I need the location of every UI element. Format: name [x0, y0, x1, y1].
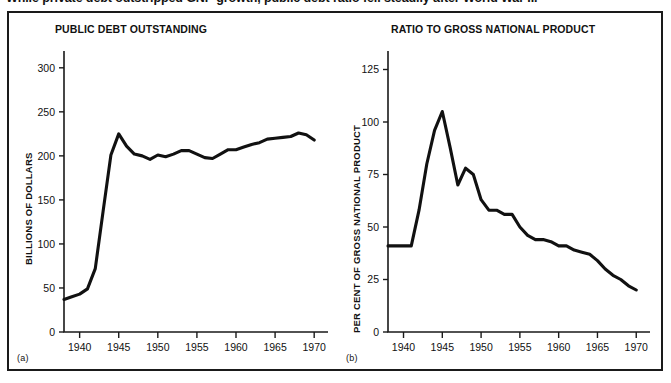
figure-frame: PUBLIC DEBT OUTSTANDING BILLIONS OF DOLL…	[7, 11, 663, 371]
x-tick-label: 1940	[392, 341, 416, 353]
panel-a-plot: 0501001502002503001940194519501955196019…	[9, 13, 339, 369]
y-tick-label: 300	[37, 62, 55, 74]
data-series-line	[64, 133, 314, 299]
x-tick-label: 1940	[68, 341, 92, 353]
y-tick-label: 0	[373, 326, 379, 338]
x-tick-label: 1945	[431, 341, 455, 353]
x-tick-label: 1945	[107, 341, 131, 353]
data-series-line	[388, 112, 636, 291]
axis-spines	[64, 51, 328, 332]
x-tick-label: 1960	[224, 341, 248, 353]
x-tick-label: 1965	[263, 341, 287, 353]
y-tick-label: 50	[367, 221, 379, 233]
y-tick-label: 125	[361, 63, 379, 75]
x-tick-label: 1950	[469, 341, 493, 353]
chart-panel-public-debt-outstanding: PUBLIC DEBT OUTSTANDING BILLIONS OF DOLL…	[9, 13, 339, 369]
axis-spines	[388, 51, 650, 332]
chart-panel-ratio-to-gnp: RATIO TO GROSS NATIONAL PRODUCT PER CENT…	[339, 13, 661, 369]
x-tick-label: 1955	[185, 341, 209, 353]
x-tick-label: 1960	[547, 341, 571, 353]
y-tick-label: 25	[367, 273, 379, 285]
y-tick-label: 0	[49, 326, 55, 338]
x-tick-label: 1970	[625, 341, 649, 353]
figure-caption-text: While private debt outstripped GNP growt…	[6, 0, 537, 5]
y-tick-label: 75	[367, 168, 379, 180]
x-tick-label: 1965	[586, 341, 610, 353]
x-tick-label: 1955	[508, 341, 532, 353]
y-tick-label: 250	[37, 106, 55, 118]
y-tick-label: 100	[37, 238, 55, 250]
x-tick-label: 1950	[146, 341, 170, 353]
panel-a-letter: (a)	[17, 353, 29, 363]
y-tick-label: 50	[43, 282, 55, 294]
x-tick-label: 1970	[303, 341, 327, 353]
y-tick-label: 200	[37, 150, 55, 162]
y-tick-label: 100	[361, 116, 379, 128]
panel-b-plot: 0255075100125194019451950195519601965197…	[339, 13, 661, 369]
y-tick-label: 150	[37, 194, 55, 206]
panel-b-letter: (b)	[346, 353, 358, 363]
